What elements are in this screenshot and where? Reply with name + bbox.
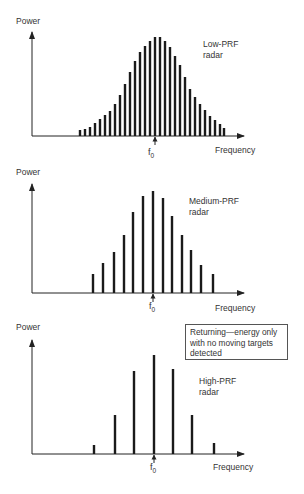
- spectral-line: [119, 95, 121, 136]
- spectral-line: [200, 265, 202, 293]
- spectral-line: [174, 56, 176, 136]
- spectral-line: [164, 41, 166, 136]
- x-axis-label: Frequency: [213, 462, 254, 472]
- spectral-line: [212, 274, 214, 293]
- spectral-line: [93, 445, 95, 454]
- spectral-line: [142, 196, 144, 293]
- spectral-line: [139, 52, 141, 136]
- spectral-line: [104, 115, 106, 136]
- spectral-line: [154, 37, 156, 136]
- spectral-line: [214, 120, 216, 136]
- spectral-line: [123, 235, 125, 293]
- spectral-line: [134, 61, 136, 136]
- prf-spectrum-diagram: PowerFrequencyf0Low-PRFradarPowerFrequen…: [0, 0, 304, 494]
- spectral-line: [199, 104, 201, 136]
- spectral-line: [162, 198, 164, 293]
- spectral-line: [149, 41, 151, 136]
- panel-title-line: radar: [189, 207, 209, 217]
- spectral-line: [204, 110, 206, 136]
- spectral-line: [219, 124, 221, 136]
- panel-title-line: Low-PRF: [203, 39, 238, 49]
- spectral-line: [181, 235, 183, 293]
- spectral-line: [99, 119, 101, 136]
- spectral-line: [102, 263, 104, 293]
- spectral-line: [124, 84, 126, 136]
- y-axis-label: Power: [16, 322, 40, 332]
- note-line-2: with no moving targets: [190, 338, 283, 349]
- f0-label: f0: [150, 462, 157, 474]
- spectral-line: [172, 369, 174, 454]
- spectral-line: [113, 252, 115, 293]
- f0-label: f0: [149, 301, 156, 313]
- panel-title-line: radar: [203, 50, 223, 60]
- y-axis-label: Power: [16, 167, 40, 177]
- note-line-1: Returning—energy only: [190, 327, 283, 338]
- spectral-line: [109, 111, 111, 136]
- spectral-line: [191, 415, 193, 454]
- spectral-line: [79, 130, 81, 136]
- spectral-line: [223, 128, 225, 136]
- panel-title-line: High-PRF: [199, 376, 236, 386]
- spectral-lines: [93, 355, 215, 454]
- spectral-line: [189, 89, 191, 136]
- panel-low-prf: PowerFrequencyf0Low-PRFradar: [16, 16, 256, 159]
- f0-label: f0: [148, 147, 155, 159]
- spectral-line: [190, 250, 192, 293]
- spectral-line: [209, 116, 211, 136]
- panel-title-line: Medium-PRF: [189, 196, 239, 206]
- spectral-line: [94, 123, 96, 136]
- spectral-line: [144, 46, 146, 136]
- spectral-line: [213, 443, 215, 454]
- spectral-line: [89, 127, 91, 136]
- y-axis-label: Power: [16, 16, 40, 26]
- spectral-line: [194, 97, 196, 136]
- spectral-line: [169, 47, 171, 136]
- spectral-line: [133, 371, 135, 454]
- spectral-line: [132, 212, 134, 293]
- spectral-line: [153, 355, 155, 454]
- note-box: Returning—energy only with no moving tar…: [185, 324, 288, 360]
- note-line-3: detected: [190, 348, 283, 359]
- spectral-line: [92, 274, 94, 293]
- spectral-line: [84, 129, 86, 136]
- spectral-line: [179, 65, 181, 136]
- panel-title-line: radar: [199, 387, 219, 397]
- spectral-line: [171, 216, 173, 293]
- spectral-line: [184, 77, 186, 136]
- x-axis-label: Frequency: [215, 303, 256, 313]
- panel-medium-prf: PowerFrequencyf0Medium-PRFradar: [16, 167, 256, 313]
- spectral-line: [129, 72, 131, 136]
- spectral-line: [159, 37, 161, 136]
- spectral-line: [114, 104, 116, 136]
- spectral-line: [114, 415, 116, 454]
- x-axis-label: Frequency: [215, 145, 256, 155]
- spectral-line: [152, 191, 154, 293]
